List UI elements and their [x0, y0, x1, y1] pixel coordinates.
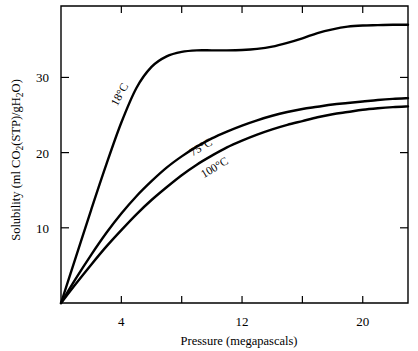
solubility-vs-pressure-chart: 41220 102030 18°C75°C100°C Pressure (meg… [0, 0, 418, 351]
x-tick-label: 4 [118, 314, 125, 329]
y-tick-label: 30 [36, 70, 49, 85]
x-tick-label: 12 [236, 314, 249, 329]
figure-container: 41220 102030 18°C75°C100°C Pressure (meg… [0, 0, 418, 351]
y-tick-label: 20 [36, 146, 49, 161]
x-tick-label: 20 [356, 314, 369, 329]
svg-text:Solubility (ml CO2(STP)/gH2O): Solubility (ml CO2(STP)/gH2O) [9, 79, 25, 241]
y-tick-label: 10 [36, 221, 49, 236]
x-axis-title: Pressure (megapascals) [181, 334, 298, 348]
y-axis-title: Solubility (ml CO2(STP)/gH2O) [9, 79, 25, 241]
